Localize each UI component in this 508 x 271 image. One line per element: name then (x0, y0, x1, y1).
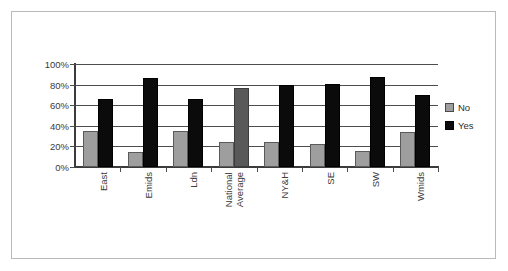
legend-item-no[interactable]: No (445, 100, 474, 115)
y-tick-label-100: 100% (23, 60, 69, 70)
bar-no[interactable] (355, 151, 370, 167)
bar-yes[interactable] (143, 78, 158, 167)
x-label-cell: Emids (120, 170, 165, 238)
y-tick-label-0: 0% (23, 163, 69, 173)
x-label-cell: NY&H (257, 170, 302, 238)
legend-item-yes[interactable]: Yes (445, 118, 474, 133)
bar-group (166, 64, 211, 167)
y-tick-label-60: 60% (23, 101, 69, 111)
y-tick-label-40: 40% (23, 122, 69, 132)
x-axis-label: SE (325, 172, 336, 185)
legend-label-yes: Yes (458, 120, 474, 131)
x-axis-label: East (98, 172, 109, 191)
bar-no[interactable] (83, 131, 98, 167)
bar-group (257, 64, 302, 167)
bar-no[interactable] (128, 152, 143, 167)
bar-yes[interactable] (415, 95, 430, 167)
y-tick-mark-0 (70, 167, 75, 168)
x-axis-label: Emids (143, 172, 154, 198)
x-axis-label: NationalAverage (223, 172, 245, 207)
x-axis-labels: EastEmidsLdnNationalAverageNY&HSESWWmids (75, 170, 438, 238)
x-label-cell: Wmids (393, 170, 438, 238)
bar-group (211, 64, 256, 167)
x-axis-label: NY&H (279, 172, 290, 198)
chart-container: 100% 80% 60% 40% 20% 0% EastEmidsLdnNati… (11, 11, 496, 259)
bar-group (302, 64, 347, 167)
bar-no[interactable] (264, 142, 279, 167)
bar-group (120, 64, 165, 167)
bar-yes[interactable] (234, 88, 249, 167)
bar-yes[interactable] (279, 85, 294, 167)
bar-groups (75, 64, 438, 167)
x-label-cell: SE (302, 170, 347, 238)
x-axis-label: Ldn (188, 172, 199, 188)
legend-swatch-yes-icon (445, 121, 454, 130)
bar-no[interactable] (310, 144, 325, 167)
x-label-cell: SW (347, 170, 392, 238)
x-label-cell: Ldn (166, 170, 211, 238)
bar-group (393, 64, 438, 167)
x-tick-mark (438, 167, 439, 172)
x-axis-label: Wmids (415, 172, 426, 201)
bar-yes[interactable] (188, 99, 203, 167)
plot-area: 100% 80% 60% 40% 20% 0% (75, 64, 438, 167)
x-label-cell: NationalAverage (211, 170, 256, 238)
bar-yes[interactable] (370, 77, 385, 167)
legend-label-no: No (458, 102, 470, 113)
bar-group (347, 64, 392, 167)
legend-swatch-no-icon (445, 103, 454, 112)
y-tick-label-20: 20% (23, 142, 69, 152)
x-axis-label: SW (370, 172, 381, 187)
bar-group (75, 64, 120, 167)
bar-yes[interactable] (98, 99, 113, 167)
bar-no[interactable] (173, 131, 188, 167)
chart-legend: No Yes (445, 100, 474, 136)
bar-no[interactable] (219, 142, 234, 167)
bar-yes[interactable] (325, 84, 340, 167)
x-label-cell: East (75, 170, 120, 238)
y-tick-label-80: 80% (23, 81, 69, 91)
bar-no[interactable] (400, 132, 415, 167)
